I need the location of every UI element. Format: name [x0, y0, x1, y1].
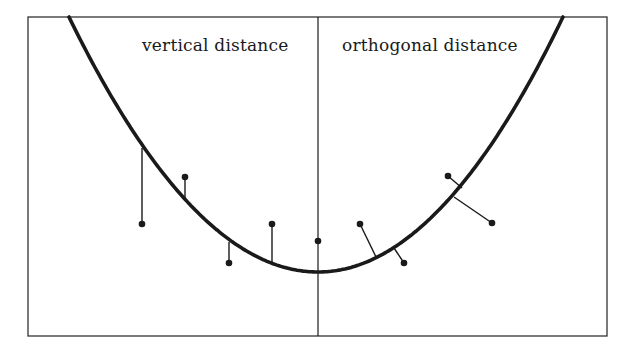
vertical-data-point [139, 221, 146, 228]
vertical-distance-label: vertical distance [142, 35, 289, 55]
orthogonal-distance-segments [357, 173, 496, 267]
figure-canvas [0, 0, 623, 357]
center-data-point [315, 238, 322, 245]
orthogonal-data-point [489, 220, 496, 227]
fitted-curve [69, 17, 563, 272]
parabola-curve [69, 17, 563, 272]
center-data-point-dot [315, 238, 322, 245]
orthogonal-residual-line [360, 224, 377, 259]
orthogonal-distance-label: orthogonal distance [342, 35, 518, 55]
vertical-data-point [269, 221, 276, 228]
distance-comparison-figure: vertical distance orthogonal distance [0, 0, 623, 357]
orthogonal-residual-line [454, 197, 492, 223]
orthogonal-data-point [401, 260, 408, 267]
orthogonal-data-point [357, 221, 364, 228]
orthogonal-data-point [445, 173, 452, 180]
vertical-data-point [182, 174, 189, 181]
vertical-data-point [226, 260, 233, 267]
